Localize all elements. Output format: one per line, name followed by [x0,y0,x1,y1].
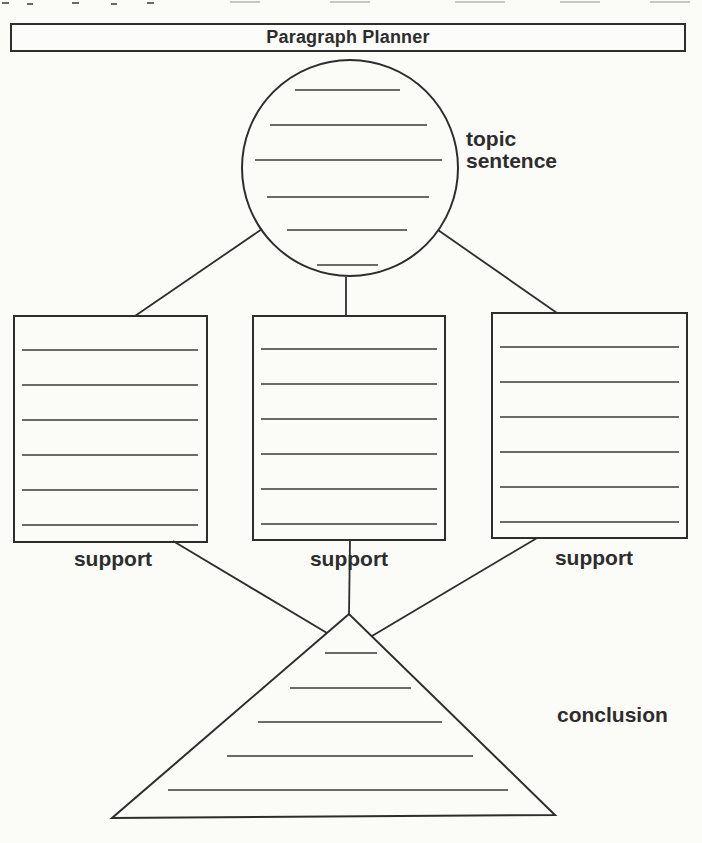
topic-sentence-label: topic sentence [466,128,557,172]
conclusion-node [112,614,555,818]
topic-sentence-writing-lines [255,90,442,265]
support-left-node [14,316,207,542]
support-right-writing-lines [500,347,679,522]
support-middle-label: support [276,548,422,570]
topic-sentence-circle [242,60,458,276]
support-left-label: support [40,548,186,570]
conclusion-writing-lines [168,653,508,790]
connector-lines [135,229,557,636]
support-left-writing-lines [22,350,198,525]
connector-topic-to-support-right [438,230,557,313]
connector-topic-to-support-left [135,229,262,316]
support-right-node [492,313,687,538]
support-middle-writing-lines [261,349,437,524]
paragraph-planner-worksheet: Paragraph Planner topic sentence support… [0,0,702,843]
cropped-page-text-artifact [2,2,690,4]
topic-sentence-node [242,60,458,276]
conclusion-label: conclusion [557,704,668,726]
worksheet-title-bar: Paragraph Planner [10,23,686,52]
support-right-label: support [521,547,667,569]
support-middle-node [253,316,445,540]
conclusion-triangle [112,614,555,818]
worksheet-title: Paragraph Planner [266,27,429,48]
